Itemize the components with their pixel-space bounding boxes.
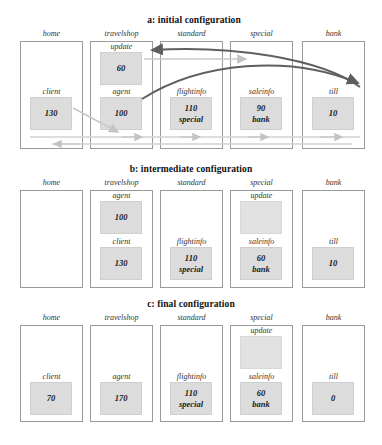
value-text: 110	[185, 103, 197, 114]
value-box-flightinfo: 110 special	[170, 382, 212, 415]
value-text: 100	[115, 212, 128, 223]
column-header-special: special	[230, 313, 293, 322]
slot-label-flightinfo: flightinfo	[160, 372, 223, 381]
slot-label-flightinfo: flightinfo	[160, 237, 223, 246]
value-text: 100	[115, 108, 128, 119]
value-box-update	[240, 201, 282, 234]
value-box-till: 0	[312, 382, 354, 415]
value-text: 10	[329, 108, 338, 119]
value-subtext: bank	[252, 264, 269, 275]
panel-initial-configuration: a: initial configuration home travelshop…	[0, 14, 382, 26]
slot-label-saleinfo: saleinfo	[230, 237, 293, 246]
column-header-bank: bank	[302, 178, 365, 187]
value-subtext: bank	[252, 114, 269, 125]
value-text: 110	[185, 388, 197, 399]
column-header-special: special	[230, 178, 293, 187]
value-text: 130	[115, 258, 128, 269]
column-header-standard: standard	[160, 29, 223, 38]
value-text: 0	[331, 393, 335, 404]
value-text: 60	[257, 388, 266, 399]
slot-label-update: update	[90, 42, 153, 51]
value-text: 60	[117, 63, 126, 74]
value-box-flightinfo: 110 special	[170, 247, 212, 280]
value-text: 130	[45, 108, 58, 119]
value-subtext: bank	[252, 399, 269, 410]
value-subtext: special	[179, 114, 203, 125]
value-box-saleinfo: 60 bank	[240, 382, 282, 415]
slot-label-till: till	[302, 237, 365, 246]
slot-label-till: till	[302, 87, 365, 96]
slot-label-client: client	[20, 372, 83, 381]
value-box-client: 130	[100, 247, 142, 280]
slot-label-update: update	[230, 191, 293, 200]
value-text: 60	[257, 253, 266, 264]
container-home	[20, 190, 83, 288]
column-header-standard: standard	[160, 313, 223, 322]
column-header-standard: standard	[160, 178, 223, 187]
value-box-update	[240, 336, 282, 369]
column-header-special: special	[230, 29, 293, 38]
column-header-home: home	[20, 178, 83, 187]
value-subtext: special	[179, 264, 203, 275]
column-header-bank: bank	[302, 313, 365, 322]
slot-label-client: client	[20, 87, 83, 96]
column-header-bank: bank	[302, 29, 365, 38]
value-text: 170	[115, 393, 128, 404]
slot-label-client: client	[90, 237, 153, 246]
value-box-client: 130	[30, 97, 72, 130]
slot-label-agent: agent	[90, 372, 153, 381]
value-box-saleinfo: 90 bank	[240, 97, 282, 130]
slot-label-agent: agent	[90, 191, 153, 200]
value-text: 90	[257, 103, 266, 114]
slot-label-agent: agent	[90, 87, 153, 96]
value-subtext: special	[179, 399, 203, 410]
panel-b-caption: b: intermediate configuration	[0, 163, 382, 175]
value-text: 110	[185, 253, 197, 264]
value-box-update: 60	[100, 52, 142, 85]
column-header-travelshop: travelshop	[90, 178, 153, 187]
value-box-agent: 100	[100, 201, 142, 234]
value-box-till: 10	[312, 97, 354, 130]
panel-final-configuration: c: final configuration home travelshop s…	[0, 298, 382, 310]
slot-label-saleinfo: saleinfo	[230, 372, 293, 381]
value-box-flightinfo: 110 special	[170, 97, 212, 130]
slot-label-saleinfo: saleinfo	[230, 87, 293, 96]
column-header-travelshop: travelshop	[90, 313, 153, 322]
value-box-client: 70	[30, 382, 72, 415]
value-text: 70	[47, 393, 56, 404]
panel-intermediate-configuration: b: intermediate configuration home trave…	[0, 163, 382, 175]
slot-label-flightinfo: flightinfo	[160, 87, 223, 96]
panel-a-caption: a: initial configuration	[0, 14, 382, 26]
slot-label-update: update	[230, 326, 293, 335]
value-box-saleinfo: 60 bank	[240, 247, 282, 280]
value-box-agent: 100	[100, 97, 142, 130]
value-box-till: 10	[312, 247, 354, 280]
column-header-travelshop: travelshop	[90, 29, 153, 38]
column-header-home: home	[20, 29, 83, 38]
column-header-home: home	[20, 313, 83, 322]
slot-label-till: till	[302, 372, 365, 381]
panel-c-caption: c: final configuration	[0, 298, 382, 310]
value-box-agent: 170	[100, 382, 142, 415]
value-text: 10	[329, 258, 338, 269]
